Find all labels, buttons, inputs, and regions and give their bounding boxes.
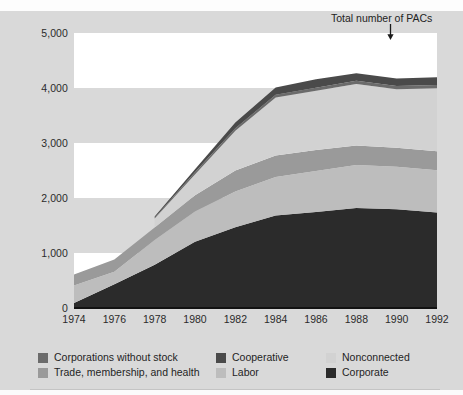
x-tick-label: 1990 <box>385 313 408 325</box>
page-bottom-margin <box>0 390 463 395</box>
legend-label: Corporate <box>342 367 389 378</box>
x-axis-labels: 1974197619781980198219841986198819901992 <box>74 313 437 329</box>
stacked-area-series <box>74 33 437 308</box>
y-tick-label: 1,000 <box>8 247 68 259</box>
x-tick-label: 1992 <box>425 313 448 325</box>
x-tick-label: 1982 <box>224 313 247 325</box>
x-tick-label: 1984 <box>264 313 287 325</box>
legend-label: Nonconnected <box>342 352 410 363</box>
legend-swatch-icon <box>216 353 226 363</box>
y-axis-labels: 01,0002,0003,0004,0005,000 <box>4 33 68 308</box>
annotation-label: Total number of PACs <box>331 12 432 24</box>
legend-swatch-icon <box>216 368 226 378</box>
y-tick-label: 0 <box>8 302 68 314</box>
legend-label: Labor <box>232 367 259 378</box>
legend-swatch-icon <box>326 353 336 363</box>
legend-item[interactable]: Cooperative <box>216 352 289 363</box>
legend-label: Corporations without stock <box>54 352 178 363</box>
x-tick-label: 1988 <box>345 313 368 325</box>
legend-item[interactable]: Corporate <box>326 367 389 378</box>
x-tick-label: 1976 <box>103 313 126 325</box>
legend-label: Cooperative <box>232 352 289 363</box>
down-arrow-icon <box>386 24 395 40</box>
figure: 01,0002,0003,0004,0005,000 1974197619781… <box>0 0 463 395</box>
legend-swatch-icon <box>38 368 48 378</box>
x-tick-label: 1974 <box>62 313 85 325</box>
y-tick-label: 4,000 <box>8 82 68 94</box>
legend-label: Trade, membership, and health <box>54 367 200 378</box>
legend: Corporations without stockTrade, members… <box>38 352 438 384</box>
legend-item[interactable]: Trade, membership, and health <box>38 367 200 378</box>
y-tick-label: 2,000 <box>8 192 68 204</box>
legend-swatch-icon <box>326 368 336 378</box>
legend-item[interactable]: Nonconnected <box>326 352 410 363</box>
legend-item[interactable]: Labor <box>216 367 259 378</box>
x-tick-label: 1978 <box>143 313 166 325</box>
x-tick-label: 1980 <box>183 313 206 325</box>
legend-item[interactable]: Corporations without stock <box>38 352 178 363</box>
x-axis-baseline <box>74 307 437 309</box>
y-tick-label: 3,000 <box>8 137 68 149</box>
plot-area <box>74 33 437 308</box>
legend-swatch-icon <box>38 353 48 363</box>
x-tick-label: 1986 <box>304 313 327 325</box>
y-tick-label: 5,000 <box>8 27 68 39</box>
cropped-caption-sliver <box>120 0 240 9</box>
